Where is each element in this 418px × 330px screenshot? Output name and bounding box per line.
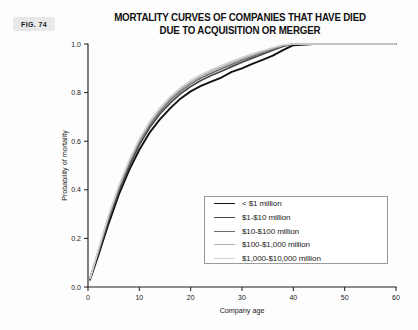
chart-plot-area: 0.00.20.40.60.81.00102030405060Company a… [0,0,418,330]
legend-item[interactable]: $1,000-$10,000 million [205,252,387,265]
legend-item[interactable]: < $1 million [205,197,387,210]
legend-item-label: < $1 million [242,199,282,208]
axes-group: 0.00.20.40.60.81.00102030405060Company a… [60,41,400,315]
x-tick-label-3: 30 [238,294,246,301]
legend-item-label: $1,000-$10,000 million [242,254,321,263]
y-tick-label-0: 0.0 [71,284,81,291]
legend-swatch-icon [214,203,235,204]
legend-swatch-icon [214,244,235,245]
x-tick-label-1: 10 [135,294,143,301]
legend-item[interactable]: $10-$100 million [205,225,387,238]
figure-container: FIG. 74 MORTALITY CURVES OF COMPANIES TH… [0,0,418,330]
legend-item-label: $10-$100 million [242,227,299,236]
legend-swatch-icon [214,217,235,218]
x-tick-label-6: 60 [392,294,400,301]
y-tick-label-1: 0.2 [71,235,81,242]
legend-swatch-icon [214,231,235,232]
y-tick-label-3: 0.6 [71,138,81,145]
x-axis-title: Company age [220,306,265,315]
legend-item-label: $100-$1,000 million [242,240,310,249]
x-tick-label-5: 50 [341,294,349,301]
chart-legend: < $1 million$1-$10 million$10-$100 milli… [204,196,388,264]
y-tick-label-5: 1.0 [71,41,81,48]
y-tick-label-4: 0.8 [71,89,81,96]
x-tick-label-4: 40 [289,294,297,301]
x-tick-label-2: 20 [187,294,195,301]
legend-item[interactable]: $100-$1,000 million [205,238,387,251]
y-axis-title: Probability of mortality [60,130,69,201]
y-tick-label-2: 0.4 [71,186,81,193]
x-tick-label-0: 0 [86,294,90,301]
legend-swatch-icon [214,258,235,259]
legend-item[interactable]: $1-$10 million [205,211,387,224]
legend-item-label: $1-$10 million [242,213,290,222]
